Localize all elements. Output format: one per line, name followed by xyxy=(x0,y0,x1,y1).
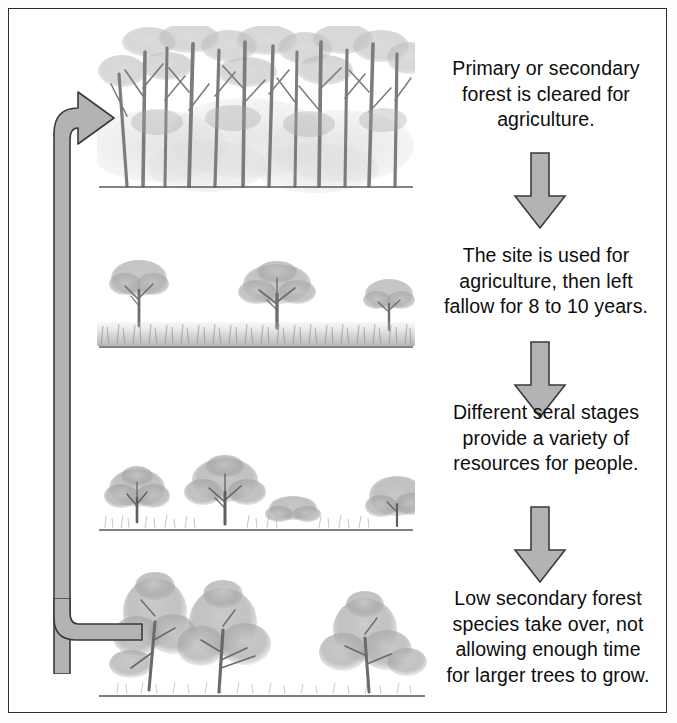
caption-stage-4: Low secondary forest species take over, … xyxy=(424,586,672,688)
loop-back-arrow-foot xyxy=(18,598,148,658)
diagram-figure: Primary or secondary forest is cleared f… xyxy=(0,0,677,723)
illustration-shrub-regrowth xyxy=(97,442,415,552)
caption-stage-1: Primary or secondary forest is cleared f… xyxy=(425,56,667,133)
caption-stage-3: Different seral stages provide a variety… xyxy=(425,400,667,477)
illustration-sparse-trees-grassland xyxy=(97,248,415,356)
illustration-tall-dense-forest xyxy=(97,26,415,211)
arrow-stage1-to-stage2 xyxy=(509,152,571,230)
loop-back-arrow xyxy=(18,74,140,674)
caption-stage-2: The site is used for agriculture, then l… xyxy=(425,243,667,320)
arrow-stage3-to-stage4 xyxy=(509,506,571,584)
